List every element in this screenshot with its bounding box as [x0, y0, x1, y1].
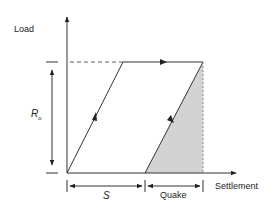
ru-label: Ru — [31, 108, 42, 121]
load-settlement-diagram — [0, 0, 279, 205]
y-axis-label: Load — [14, 24, 34, 34]
x-axis-label: Settlement — [215, 181, 258, 191]
loading-arrow-icon — [92, 112, 97, 121]
quake-label: Quake — [160, 190, 187, 200]
set-label: S — [103, 190, 110, 201]
plateau-arrow-icon — [160, 59, 167, 65]
